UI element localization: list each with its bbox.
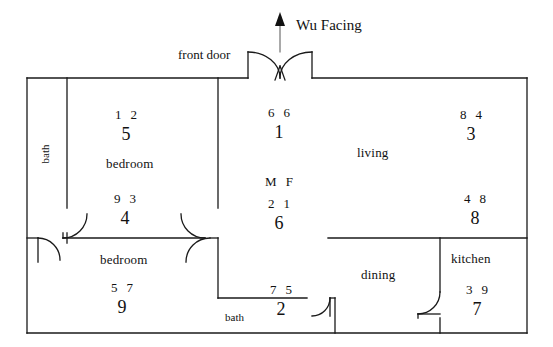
star-period: 9 [96, 298, 148, 316]
star-cluster-kitchen: 39 7 [451, 283, 503, 318]
door-swing-bath-left [38, 238, 60, 260]
star-mountain: 2 [268, 196, 284, 211]
mf-marker: MF [253, 175, 305, 188]
star-water: 1 [284, 196, 300, 211]
star-mountain: 8 [460, 107, 476, 122]
room-label-dining: dining [361, 268, 395, 281]
room-label-living: living [357, 146, 389, 159]
star-mountain-water-row: 57 [96, 281, 148, 294]
door-swing-hall-upper [181, 214, 205, 238]
star-cluster-bedroom-upper-bottom: 93 4 [99, 192, 151, 227]
star-water: 7 [127, 280, 143, 295]
star-period: 4 [99, 209, 151, 227]
star-cluster-living-top: 84 3 [445, 108, 497, 143]
room-label-bedroom-lower: bedroom [100, 253, 148, 266]
star-period: 5 [100, 125, 152, 143]
star-period: 8 [449, 209, 501, 227]
room-label-bath-left: bath [39, 132, 51, 176]
star-water: 3 [130, 191, 146, 206]
star-period: 6 [253, 214, 305, 232]
star-water: 6 [284, 105, 300, 120]
star-mountain-water-row: 21 [253, 197, 305, 210]
star-mountain-water-row: 84 [445, 108, 497, 121]
star-mountain-water-row: 75 [255, 283, 307, 296]
star-mountain: 5 [111, 280, 127, 295]
star-period: 3 [445, 125, 497, 143]
star-mountain: 1 [115, 107, 131, 122]
facing-marker-letter: F [286, 174, 302, 189]
door-swing-kitchen [418, 292, 440, 314]
star-cluster-bedroom-lower: 57 9 [96, 281, 148, 316]
mf-row: MF [253, 175, 305, 188]
star-water: 9 [482, 282, 498, 297]
star-cluster-bath-lower: 75 2 [255, 283, 307, 318]
room-label-bath-lower: bath [225, 312, 244, 323]
mountain-marker-letter: M [265, 174, 286, 189]
star-water: 2 [131, 107, 147, 122]
facing-direction-title: Wu Facing [296, 18, 362, 33]
front-door-label: front door [178, 48, 230, 61]
star-cluster-bedroom-upper-top: 12 5 [100, 108, 152, 143]
star-mountain: 3 [466, 282, 482, 297]
star-cluster-entry-top: 66 1 [253, 106, 305, 141]
room-label-kitchen: kitchen [451, 252, 491, 265]
star-mountain-water-row: 39 [451, 283, 503, 296]
star-mountain-water-row: 48 [449, 192, 501, 205]
floor-plan-diagram: Wu Facing front door bath bedroom bedroo… [0, 0, 553, 347]
door-swing-bath-lower [312, 298, 330, 316]
star-mountain: 9 [114, 191, 130, 206]
front-door-swing-right [280, 52, 312, 78]
star-period: 2 [255, 300, 307, 318]
star-mountain-water-row: 93 [99, 192, 151, 205]
star-period: 1 [253, 123, 305, 141]
star-cluster-living-bottom: 48 8 [449, 192, 501, 227]
north-arrow-head [275, 12, 285, 26]
door-swing-hall-lower [186, 238, 210, 262]
star-mountain: 6 [268, 105, 284, 120]
star-period: 7 [451, 300, 503, 318]
room-label-bedroom-upper: bedroom [106, 157, 154, 170]
star-water: 5 [286, 282, 302, 297]
star-mountain: 4 [464, 191, 480, 206]
star-water: 4 [476, 107, 492, 122]
front-door-swing-left [248, 52, 280, 78]
star-mountain: 7 [270, 282, 286, 297]
star-mountain-water-row: 66 [253, 106, 305, 119]
star-cluster-entry-bottom: 21 6 [253, 197, 305, 232]
star-mountain-water-row: 12 [100, 108, 152, 121]
star-water: 8 [480, 191, 496, 206]
